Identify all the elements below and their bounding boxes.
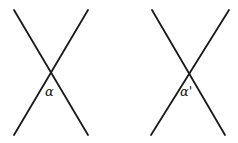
crossing-diagram xyxy=(0,0,238,143)
right-crossing xyxy=(151,10,229,135)
right-angle-label: α' xyxy=(180,85,192,98)
left-crossing xyxy=(14,10,88,135)
left-angle-label: α xyxy=(45,85,54,98)
